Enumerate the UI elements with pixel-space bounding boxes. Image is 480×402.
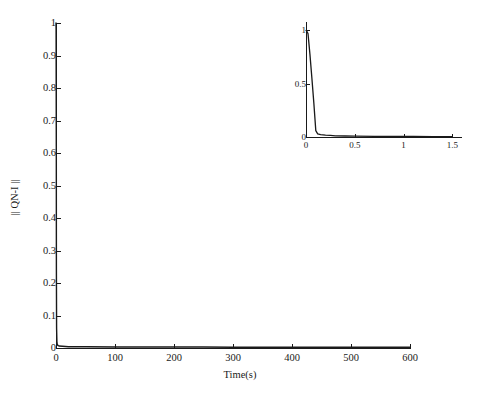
main-y-tick-label: 0.1: [12, 311, 56, 321]
main-y-tick-label: 0.3: [12, 246, 56, 256]
main-x-tick-label: 400: [267, 352, 317, 364]
x-axis-title: Time(s): [160, 369, 320, 380]
main-x-tick-label: 600: [385, 352, 435, 364]
inset-y-tick-label: 1: [280, 26, 306, 35]
inset-series-line: [300, 18, 468, 142]
figure-canvas: 0 0.1 0.2 0.3 0.4 0.5 0.6 0.7 0.8 0.9 1 …: [0, 0, 480, 402]
main-y-tick-label: 0.9: [12, 51, 56, 61]
inset-x-tick-label: 0: [286, 140, 326, 151]
main-y-tick-label: 0.6: [12, 148, 56, 158]
inset-x-tick-label: 1: [384, 140, 424, 151]
main-y-tick-label: 1: [12, 18, 56, 28]
main-x-tick-label: 100: [90, 352, 140, 364]
main-y-tick-label: 0.8: [12, 83, 56, 93]
inset-plot: 0 0.5 1 0 0.5 1 1.5: [300, 18, 468, 142]
inset-y-axis-spine: [306, 22, 307, 137]
main-x-tick-label: 300: [208, 352, 258, 364]
inset-x-tick-label: 0.5: [335, 140, 375, 151]
inset-y-tick-label: 0.5: [280, 80, 306, 89]
y-axis-title: || QN-I ||: [9, 158, 20, 238]
main-x-tick-label: 0: [31, 352, 81, 364]
main-y-tick-label: 0.7: [12, 116, 56, 126]
main-x-tick-label: 500: [326, 352, 376, 364]
inset-x-axis-spine: [306, 137, 462, 138]
main-x-tick-label: 200: [149, 352, 199, 364]
main-y-tick-label: 0.2: [12, 278, 56, 288]
inset-x-tick-label: 1.5: [432, 140, 472, 151]
